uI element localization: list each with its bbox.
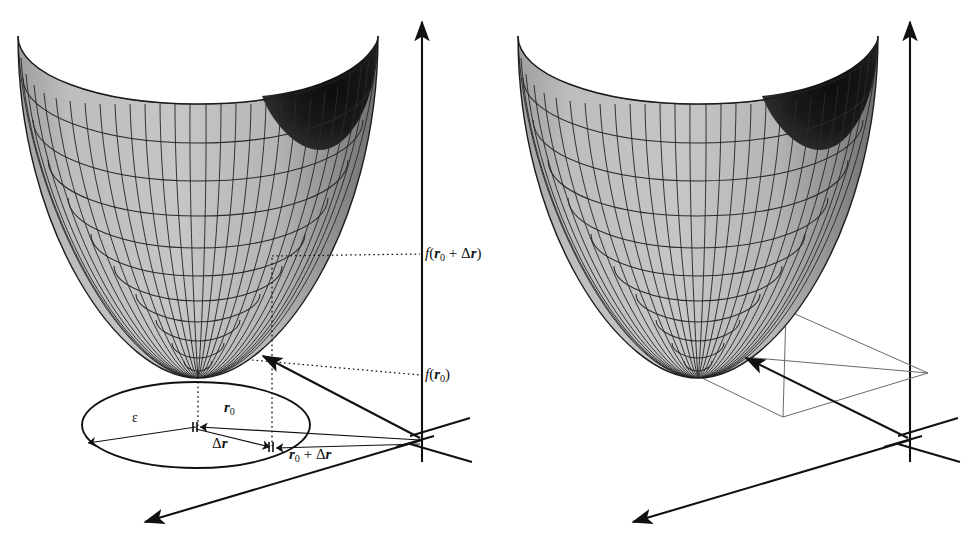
paraboloid-surface-left [18,36,378,378]
label-epsilon: ε [132,411,138,425]
label-f-r0: f(r0) [425,367,450,384]
panel-right [488,0,976,552]
panel-left-graphics [0,0,488,552]
vector-to-surface-right [746,358,908,438]
label-r0-plus-delta-r: r0 + Δr [289,447,331,464]
measure-arrows-left [88,422,420,452]
label-r0: r0 [224,400,235,417]
panel-right-graphics [488,0,976,552]
label-delta-r: Δr [212,436,228,451]
figure-root: f(r0 + Δr) f(r0) ε r0 Δr r0 + Δr [0,0,976,552]
panel-left: f(r0 + Δr) f(r0) ε r0 Δr r0 + Δr [0,0,488,552]
label-f-r0-plus-dr: f(r0 + Δr) [425,246,482,263]
vector-to-surface-left [263,356,420,438]
epsilon-ellipse-left [82,382,310,468]
